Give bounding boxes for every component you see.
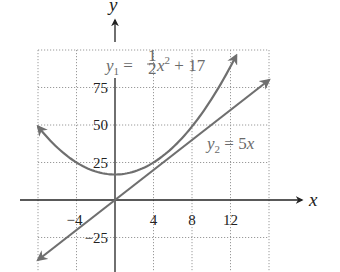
y1-var: y (104, 56, 114, 75)
chart: x y −44812755025−25 y1 = 1 2 x2 + 17 y2 … (0, 0, 340, 272)
y-tick-label: 25 (93, 155, 108, 171)
x-tick-label: 8 (188, 212, 196, 228)
svg-text:x2 + 17: x2 + 17 (156, 54, 206, 75)
series-y1-curve (38, 55, 236, 174)
y1-eq: = (119, 56, 133, 75)
svg-text:y2 = 5x: y2 = 5x (205, 134, 255, 155)
y2-var: y (205, 134, 215, 153)
x-tick-label: 12 (223, 212, 238, 228)
y1-frac-den: 2 (148, 59, 157, 78)
x-tick-label: 4 (150, 212, 158, 228)
y2-xvar: x (246, 134, 255, 153)
x-axis-label: x (308, 189, 318, 210)
y1-equation-label: y1 = 1 2 x2 + 17 (104, 46, 206, 78)
svg-text:y1 =: y1 = (104, 56, 133, 77)
y-axis-label: y (107, 0, 118, 15)
y1-rest: + 17 (170, 56, 206, 75)
y2-eq: = 5 (220, 134, 247, 153)
y-tick-label: −25 (85, 230, 108, 246)
y2-equation-label: y2 = 5x (205, 134, 255, 155)
y-tick-label: 50 (93, 117, 108, 133)
y-tick-label: 75 (93, 80, 108, 96)
